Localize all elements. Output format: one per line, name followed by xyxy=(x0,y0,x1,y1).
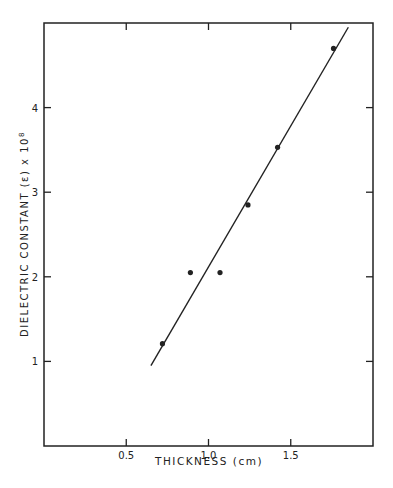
y-axis-label: DIELECTRIC CONSTANT (ε) x 108 xyxy=(18,131,30,337)
tick-labels: 0.51.01.51234 xyxy=(32,103,299,461)
x-axis-label: THICKNESS (cm) xyxy=(154,455,263,467)
y-tick-label: 2 xyxy=(32,272,38,283)
data-point xyxy=(188,270,193,275)
x-tick-label: 0.5 xyxy=(118,450,134,461)
y-tick-label: 4 xyxy=(32,103,38,114)
chart: 0.51.01.51234 THICKNESS (cm) DIELECTRIC … xyxy=(0,0,393,488)
plot-frame xyxy=(44,23,373,446)
data-point xyxy=(217,270,222,275)
y-tick-label: 1 xyxy=(32,356,38,367)
y-axis-label-group: DIELECTRIC CONSTANT (ε) x 108 xyxy=(18,131,30,337)
y-axis-label-exponent: 8 xyxy=(18,131,26,137)
fit-line xyxy=(151,27,348,365)
axis-ticks xyxy=(44,23,373,446)
y-tick-label: 3 xyxy=(32,187,38,198)
data-series xyxy=(151,27,348,365)
x-tick-label: 1.5 xyxy=(283,450,299,461)
